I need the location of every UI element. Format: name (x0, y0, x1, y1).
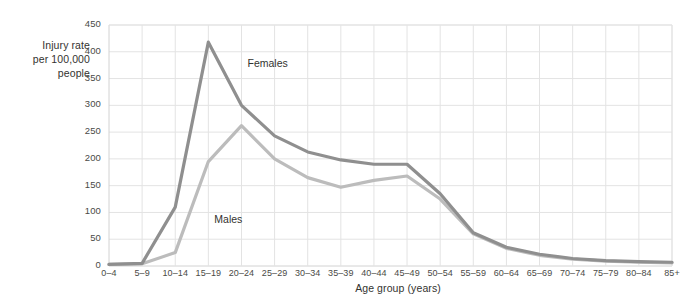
injury-rate-line-chart: Injury rate per 100,000 people 050100150… (0, 0, 692, 304)
x-axis-title-text: Age group (years) (355, 282, 441, 294)
series-line-males (109, 126, 672, 265)
x-axis-title: Age group (years) (0, 282, 692, 294)
series-line-females (109, 42, 672, 264)
series-annotation-females: Females (247, 57, 287, 69)
series-annotation-males: Males (214, 213, 242, 225)
plot-area: FemalesMales (0, 0, 692, 304)
